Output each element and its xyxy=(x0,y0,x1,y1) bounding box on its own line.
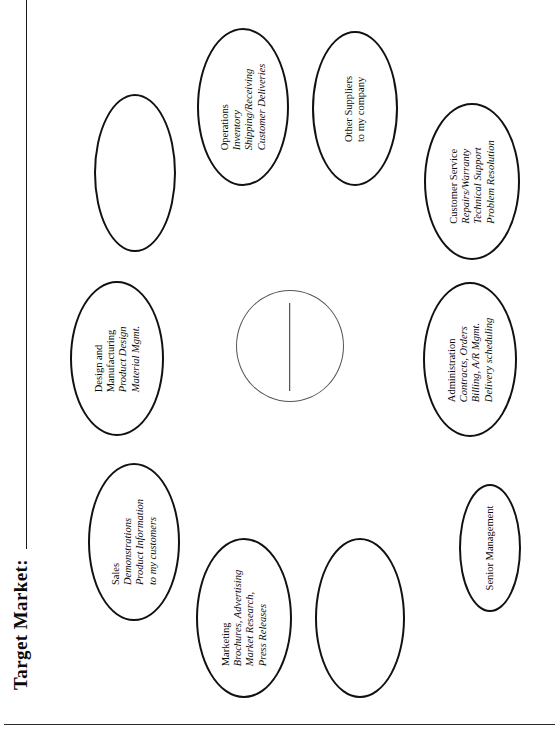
sales-sub-2: to my customers xyxy=(146,499,158,585)
design-head-line-2: Manufacturing xyxy=(105,325,117,392)
marketing-sub-0: Brochures, Advertising xyxy=(232,570,244,666)
ellipse-senior-management[interactable]: Senior Management xyxy=(459,484,521,612)
ellipse-sales-label: Sales Demonstrations Product Information… xyxy=(110,499,159,585)
page-title-fill-in-rule[interactable] xyxy=(26,0,27,549)
center-fill-in-line[interactable] xyxy=(289,303,290,391)
other-suppliers-sub-0: to my company xyxy=(355,75,367,141)
customer-service-sub-1: Technical Support xyxy=(472,140,484,223)
ellipse-administration-label: Administration Contracts, Orders Billing… xyxy=(446,317,495,401)
sales-head: Sales xyxy=(110,499,122,585)
administration-sub-2: Delivery scheduling xyxy=(482,317,494,401)
ellipse-marketing-label: Marketing Brochures, Advertising Market … xyxy=(220,570,269,666)
marketing-sub-2: Press Releases xyxy=(256,570,268,666)
customer-service-head: Customer Service xyxy=(448,140,460,223)
ellipse-senior-management-label: Senior Management xyxy=(484,506,496,591)
senior-management-head: Senior Management xyxy=(484,506,496,591)
center-blank-circle[interactable] xyxy=(236,290,344,402)
administration-sub-0: Contracts, Orders xyxy=(458,317,470,401)
marketing-sub-1: Market Research, xyxy=(244,570,256,666)
ellipse-blank-top-left[interactable] xyxy=(94,94,176,252)
page-bottom-rule xyxy=(4,724,555,725)
ellipse-design-and-manufacturing[interactable]: Design and Manufacturing Product Design … xyxy=(70,281,164,436)
sales-sub-1: Product Information xyxy=(134,499,146,585)
ellipse-customer-service-label: Customer Service Repairs/Warranty Techni… xyxy=(448,140,497,223)
administration-sub-1: Billing, A/R Mgmt. xyxy=(470,317,482,401)
ellipse-operations[interactable]: Operations Inventory Shipping/Receiving … xyxy=(197,28,289,186)
design-head-line-1: Design and xyxy=(93,325,105,392)
ellipse-sales[interactable]: Sales Demonstrations Product Information… xyxy=(88,463,180,621)
ellipse-marketing[interactable]: Marketing Brochures, Advertising Market … xyxy=(196,538,292,698)
operations-sub-0: Inventory xyxy=(231,64,243,151)
ellipse-other-suppliers[interactable]: Other Suppliers to my company xyxy=(312,31,398,186)
marketing-head: Marketing xyxy=(220,570,232,666)
operations-sub-1: Shipping/Receiving xyxy=(243,64,255,151)
ellipse-administration[interactable]: Administration Contracts, Orders Billing… xyxy=(423,282,517,437)
customer-service-sub-2: Problem Resolution xyxy=(484,140,496,223)
ellipse-customer-service[interactable]: Customer Service Repairs/Warranty Techni… xyxy=(424,103,520,260)
design-sub-0: Product Design xyxy=(117,325,129,392)
design-sub-1: Material Mgmt. xyxy=(129,325,141,392)
ellipse-operations-label: Operations Inventory Shipping/Receiving … xyxy=(219,64,268,151)
ellipse-blank-bottom-middle[interactable] xyxy=(315,538,405,698)
ellipse-design-and-manufacturing-label: Design and Manufacturing Product Design … xyxy=(93,325,142,392)
other-suppliers-head: Other Suppliers xyxy=(343,75,355,141)
page-title-text: Target Market: xyxy=(10,559,32,690)
page-title: Target Market: xyxy=(10,0,54,690)
operations-head: Operations xyxy=(219,64,231,151)
diagram-page: Target Market: Operations Inventory Ship… xyxy=(0,0,559,734)
ellipse-other-suppliers-label: Other Suppliers to my company xyxy=(343,75,367,141)
sales-sub-0: Demonstrations xyxy=(122,499,134,585)
administration-head: Administration xyxy=(446,317,458,401)
customer-service-sub-0: Repairs/Warranty xyxy=(460,140,472,223)
operations-sub-2: Customer Deliveries xyxy=(255,64,267,151)
